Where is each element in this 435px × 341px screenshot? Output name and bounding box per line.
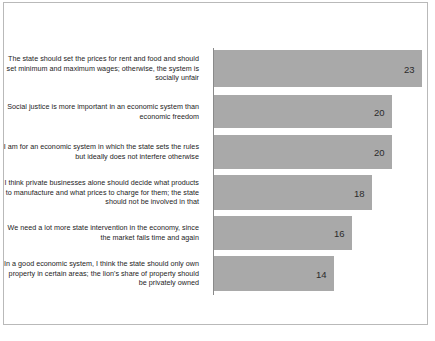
bar-value-label: 20 bbox=[374, 147, 385, 158]
bar-rect[interactable] bbox=[214, 216, 352, 250]
bar-value-label: 20 bbox=[374, 106, 385, 117]
bar-row[interactable]: Social justice is more important in an e… bbox=[4, 95, 427, 128]
bar-rect[interactable] bbox=[214, 50, 422, 87]
plot-area: The state should set the prices for rent… bbox=[4, 3, 427, 324]
bar-rect[interactable] bbox=[214, 95, 392, 128]
bar-category-label: In a good economic system, I think the s… bbox=[0, 259, 199, 288]
bar-category-label: I am for an economic system in which the… bbox=[0, 142, 199, 161]
bar-value-label: 23 bbox=[404, 63, 415, 74]
bar-rect[interactable] bbox=[214, 135, 392, 169]
bar-row[interactable]: I am for an economic system in which the… bbox=[4, 135, 427, 169]
bar-rect[interactable] bbox=[214, 175, 372, 210]
bar-category-label: I think private businesses alone should … bbox=[0, 178, 199, 207]
chart-frame: The state should set the prices for rent… bbox=[3, 2, 428, 325]
bar-category-label: The state should set the prices for rent… bbox=[0, 54, 199, 83]
bar-value-label: 14 bbox=[316, 268, 327, 279]
bar-row[interactable]: In a good economic system, I think the s… bbox=[4, 256, 427, 291]
bar-row[interactable]: The state should set the prices for rent… bbox=[4, 50, 427, 87]
bar-category-label: Social justice is more important in an e… bbox=[0, 102, 199, 121]
bar-value-label: 18 bbox=[354, 187, 365, 198]
bar-value-label: 16 bbox=[334, 228, 345, 239]
bar-category-label: We need a lot more state intervention in… bbox=[0, 223, 199, 242]
bar-row[interactable]: We need a lot more state intervention in… bbox=[4, 216, 427, 250]
bar-row[interactable]: I think private businesses alone should … bbox=[4, 175, 427, 210]
